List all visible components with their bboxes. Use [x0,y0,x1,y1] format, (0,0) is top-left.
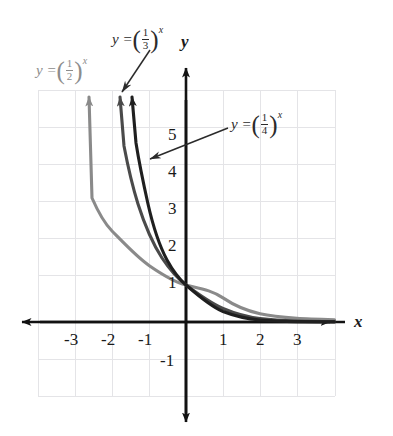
fraction-one-third: 13 [142,27,150,51]
x-tick-1: 1 [219,331,228,348]
fraction-denominator: 3 [142,40,150,52]
curve-label-quarter: y =(14)x [231,113,282,138]
curve-label-third: y =(13)x [112,28,163,53]
x-tick-2: 2 [256,331,265,348]
curve-half [89,97,335,320]
curve-label-quarter-lhs: y = [231,116,252,132]
curve-label-half-lhs: y = [36,62,57,78]
paren-open: ( [252,111,260,138]
fraction-one-half: 12 [66,58,74,82]
arrow-to-third-curve [122,50,150,92]
curve-label-third-lhs: y = [112,31,133,47]
y-tick-5: 5 [168,126,177,143]
paren-close: ) [74,57,82,84]
paren-open: ( [133,26,141,53]
y-tick--1: -1 [160,352,174,369]
paren-open: ( [57,57,65,84]
exponent-x: x [278,109,282,120]
paren-close: ) [269,111,277,138]
curve-label-half: y =(12)x [36,59,87,84]
curve-third [120,97,335,322]
exponent-x: x [159,24,163,35]
x-tick--1: -1 [138,331,152,348]
curves [89,97,335,322]
fraction-denominator: 4 [261,125,269,137]
paren-close: ) [150,26,158,53]
x-tick-3: 3 [293,331,302,348]
x-axis-label: x [354,313,363,330]
y-tick-4: 4 [168,163,177,180]
exponent-x: x [83,55,87,66]
y-axis-label: y [181,33,189,50]
y-tick-1: 1 [168,274,177,291]
arrow-to-quarter-curve [150,128,228,159]
exponential-decay-graph-figure: x y -3 -2 -1 1 2 3 1 2 3 4 5 -1 y =(12)x… [0,0,393,436]
y-tick-3: 3 [168,200,177,217]
fraction-denominator: 2 [66,71,74,83]
x-tick--3: -3 [64,331,78,348]
y-tick-2: 2 [168,237,177,254]
x-tick--2: -2 [101,331,115,348]
fraction-one-quarter: 14 [261,112,269,136]
